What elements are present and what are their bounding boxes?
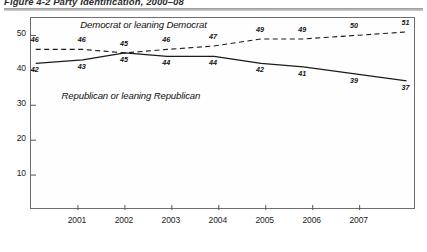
y-axis-tick-label: 30	[4, 98, 26, 108]
x-axis-tick-label: 2004	[198, 215, 238, 225]
x-axis-tick-label: 2005	[245, 215, 285, 225]
data-point-label: 43	[78, 62, 86, 71]
y-axis-tick-label: 10	[4, 168, 26, 178]
chart-canvas	[31, 18, 416, 210]
y-axis-tick-label: 50	[4, 28, 26, 38]
data-point-label: 44	[162, 58, 170, 67]
series-line-democrat	[36, 32, 407, 53]
data-point-label: 45	[120, 39, 128, 48]
data-point-label: 41	[298, 69, 306, 78]
data-point-label: 46	[31, 35, 39, 44]
data-point-label: 39	[350, 76, 358, 85]
x-axis-tick-label: 2007	[339, 215, 379, 225]
data-point-label: 51	[402, 18, 410, 27]
x-axis-tick-label: 2006	[292, 215, 332, 225]
data-point-label: 42	[31, 65, 39, 74]
data-point-label: 47	[209, 32, 217, 41]
figure-title: Figure 4-2 Party Identification, 2000–08	[4, 0, 184, 7]
data-point-label: 42	[256, 65, 264, 74]
y-axis-tick-label: 40	[4, 63, 26, 73]
title-divider-rule	[4, 8, 423, 11]
data-point-label: 49	[298, 25, 306, 34]
data-point-label: 50	[350, 21, 358, 30]
data-point-label: 49	[256, 25, 264, 34]
data-point-label: 45	[120, 55, 128, 64]
data-point-label: 46	[162, 35, 170, 44]
data-point-label: 37	[402, 83, 410, 92]
y-axis-tick-label: 20	[4, 133, 26, 143]
x-axis-tick-label: 2003	[151, 215, 191, 225]
data-point-label: 46	[78, 35, 86, 44]
x-axis-tick-label: 2001	[57, 215, 97, 225]
data-point-label: 44	[209, 58, 217, 67]
series-annotation-democrat: Democrat or leaning Democrat	[80, 19, 206, 30]
x-axis-tick-label: 2002	[104, 215, 144, 225]
chart-plot-area	[30, 17, 415, 209]
series-annotation-republican: Republican or leaning Republican	[62, 90, 201, 101]
